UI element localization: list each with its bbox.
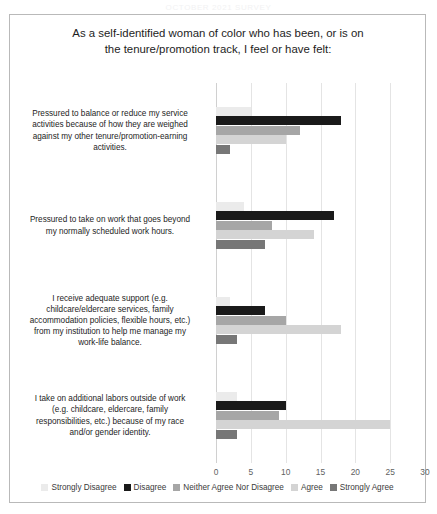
x-tick-20: 20 [351,467,360,477]
bar [216,116,341,125]
bars-and-gridlines [216,83,425,463]
bar [216,211,334,220]
legend-item[interactable]: Disagree [124,483,167,492]
x-tick-10: 10 [281,467,290,477]
bar [216,145,230,154]
page-running-header: OCTOBER 2021 SURVEY [0,0,437,15]
plot-area: Pressured to balance or reduce my servic… [10,83,425,463]
bar [216,401,286,410]
legend-label: Agree [301,483,323,492]
bar [216,107,251,116]
gridline-30 [425,83,426,463]
legend-item[interactable]: Strongly Disagree [41,483,116,492]
bar [216,202,244,211]
bar [216,430,237,439]
legend-label: Disagree [134,483,167,492]
bar [216,297,230,306]
x-tick-25: 25 [385,467,394,477]
bar-group [216,178,425,273]
legend-swatch-icon [124,484,131,491]
bar-group [216,273,425,368]
bar [216,392,237,401]
category-label: Pressured to balance or reduce my servic… [12,108,208,153]
chart-title-line-1: As a self-identified woman of color who … [24,25,412,41]
bar-group [216,83,425,178]
bar [216,316,286,325]
chart-title: As a self-identified woman of color who … [24,25,412,57]
legend-label: Neither Agree Nor Disagree [183,483,284,492]
legend-swatch-icon [41,484,48,491]
legend-item[interactable]: Agree [291,483,323,492]
bar [216,135,286,144]
legend-swatch-icon [291,484,298,491]
x-axis-tick-labels: 051015202530 [216,467,425,481]
bar [216,411,279,420]
bar [216,420,390,429]
bar [216,230,314,239]
bar [216,240,265,249]
category-axis-labels: Pressured to balance or reduce my servic… [10,83,214,463]
x-tick-5: 5 [248,467,253,477]
bar [216,126,300,135]
bar [216,221,272,230]
bar-group [216,368,425,463]
bar [216,325,341,334]
legend-item[interactable]: Neither Agree Nor Disagree [173,483,284,492]
legend-label: Strongly Disagree [51,483,116,492]
chart-container: As a self-identified woman of color who … [9,14,426,503]
legend-swatch-icon [330,484,337,491]
chart-title-line-2: the tenure/promotion track, I feel or ha… [24,41,412,57]
category-label: Pressured to take on work that goes beyo… [12,214,208,236]
legend-label: Strongly Agree [340,483,394,492]
category-label: I take on additional labors outside of w… [12,393,208,438]
category-label: I receive adequate support (e.g.childcar… [12,293,208,349]
x-tick-0: 0 [214,467,219,477]
chart-legend: Strongly DisagreeDisagreeNeither Agree N… [10,483,425,492]
x-tick-15: 15 [316,467,325,477]
bar [216,306,265,315]
legend-item[interactable]: Strongly Agree [330,483,394,492]
bar [216,335,237,344]
x-tick-30: 30 [420,467,429,477]
legend-swatch-icon [173,484,180,491]
